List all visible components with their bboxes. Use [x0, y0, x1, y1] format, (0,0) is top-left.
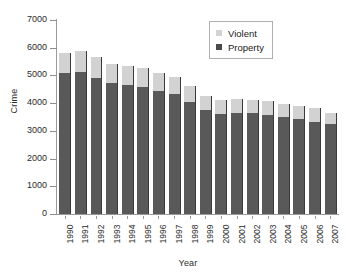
stacked-bar: [309, 108, 320, 214]
x-tick: 1993: [104, 216, 120, 258]
bar-segment-violent: [278, 104, 289, 117]
x-tick: 2007: [322, 216, 338, 258]
x-axis-title: Year: [0, 258, 346, 268]
bar-column: [307, 20, 323, 214]
bar-segment-property: [293, 119, 304, 214]
y-tick: 0: [50, 214, 57, 215]
x-tick: 1994: [119, 216, 135, 258]
stacked-bar: [200, 96, 211, 214]
x-tick-mark: [205, 216, 206, 219]
x-tick-mark: [315, 216, 316, 219]
x-tick: 1996: [151, 216, 167, 258]
y-tick-label: 7000: [27, 14, 47, 24]
y-tick: 1000: [50, 186, 57, 187]
bar-segment-violent: [59, 53, 70, 73]
stacked-bar: [75, 51, 86, 215]
bar-segment-property: [215, 114, 226, 214]
x-tick: 1999: [197, 216, 213, 258]
y-tick-label: 4000: [27, 97, 47, 107]
y-tick: 3000: [50, 131, 57, 132]
bar-segment-violent: [325, 113, 336, 124]
bar-column: [166, 20, 182, 214]
bar-column: [135, 20, 151, 214]
x-tick: 2002: [244, 216, 260, 258]
bar-segment-property: [106, 83, 117, 214]
stacked-bar: [106, 64, 117, 214]
y-tick-mark: [50, 131, 57, 132]
bar-column: [322, 20, 338, 214]
bar-column: [104, 20, 120, 214]
bar-segment-property: [200, 110, 211, 214]
bar-segment-property: [262, 115, 273, 214]
legend-item-property: Property: [216, 40, 264, 54]
bar-segment-violent: [293, 106, 304, 119]
bar-column: [57, 20, 73, 214]
y-tick-mark: [50, 214, 57, 215]
x-tick: 2005: [291, 216, 307, 258]
x-tick: 1997: [166, 216, 182, 258]
stacked-bar: [278, 104, 289, 214]
bar-column: [88, 20, 104, 214]
y-tick: 2000: [50, 159, 57, 160]
crime-stacked-bar-chart: Crime 70006000500040003000200010000 1990…: [0, 0, 346, 276]
bar-column: [73, 20, 89, 214]
x-tick-mark: [174, 216, 175, 219]
bar-segment-violent: [106, 64, 117, 83]
property-swatch-icon: [216, 44, 222, 50]
bar-segment-violent: [169, 77, 180, 94]
stacked-bar: [184, 86, 195, 214]
x-tick-mark: [252, 216, 253, 219]
x-tick-mark: [283, 216, 284, 219]
legend-label-violent: Violent: [228, 28, 257, 39]
bar-segment-property: [137, 87, 148, 214]
bar-segment-violent: [91, 57, 102, 78]
bar-segment-property: [247, 113, 258, 214]
legend-label-property: Property: [228, 42, 264, 53]
y-tick-label: 0: [42, 208, 47, 218]
bar-column: [182, 20, 198, 214]
x-tick: 1995: [135, 216, 151, 258]
bar-column: [119, 20, 135, 214]
stacked-bar: [215, 100, 226, 214]
y-tick-label: 2000: [27, 153, 47, 163]
x-tick: 2004: [276, 216, 292, 258]
x-tick: 2003: [260, 216, 276, 258]
y-tick-mark: [50, 48, 57, 49]
stacked-bar: [137, 68, 148, 214]
x-tick-mark: [80, 216, 81, 219]
bar-segment-violent: [137, 68, 148, 87]
stacked-bar: [231, 99, 242, 214]
x-tick: 2001: [229, 216, 245, 258]
y-tick: 7000: [50, 20, 57, 21]
x-tick-mark: [190, 216, 191, 219]
bar-segment-violent: [215, 100, 226, 114]
y-tick: 5000: [50, 75, 57, 76]
y-tick-label: 3000: [27, 125, 47, 135]
x-tick: 2006: [307, 216, 323, 258]
bar-segment-violent: [75, 51, 86, 72]
bar-segment-property: [231, 113, 242, 214]
bar-segment-property: [169, 94, 180, 214]
x-tick: 1998: [182, 216, 198, 258]
x-axis-line: [56, 214, 339, 215]
x-tick-mark: [127, 216, 128, 219]
x-axis-ticks: 1990199119921993199419951996199719981999…: [57, 216, 338, 258]
bar-column: [276, 20, 292, 214]
bar-column: [151, 20, 167, 214]
x-tick: 2000: [213, 216, 229, 258]
bar-segment-violent: [200, 96, 211, 111]
x-tick-mark: [221, 216, 222, 219]
y-tick-label: 1000: [27, 180, 47, 190]
x-tick-mark: [268, 216, 269, 219]
y-axis-title: Crime: [9, 71, 19, 131]
x-tick-mark: [158, 216, 159, 219]
stacked-bar: [59, 53, 70, 214]
y-tick-mark: [50, 103, 57, 104]
bar-segment-violent: [231, 99, 242, 113]
violent-swatch-icon: [216, 30, 222, 36]
bar-segment-violent: [122, 66, 133, 85]
bar-segment-property: [75, 72, 86, 214]
stacked-bar: [153, 73, 164, 214]
stacked-bar: [262, 101, 273, 214]
x-tick-mark: [96, 216, 97, 219]
